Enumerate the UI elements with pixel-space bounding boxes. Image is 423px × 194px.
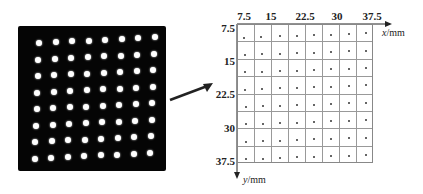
sample-point	[330, 51, 332, 53]
sample-point	[245, 141, 247, 143]
sample-point	[330, 68, 332, 70]
coordinate-grid	[237, 24, 373, 163]
sample-point	[330, 103, 332, 105]
x-axis-label: x/mm	[382, 27, 405, 38]
x-tick: 30	[332, 10, 343, 22]
sample-point	[348, 85, 350, 87]
y-tick: 7.5	[205, 22, 235, 34]
sample-point	[262, 158, 264, 160]
sample-point	[296, 52, 298, 54]
sample-point	[244, 89, 246, 91]
grid-line	[339, 25, 340, 162]
sample-point	[279, 105, 281, 107]
sample-point	[262, 123, 264, 125]
sample-point	[245, 123, 247, 125]
sample-point	[296, 139, 298, 141]
sample-point	[365, 32, 367, 34]
sample-point	[348, 68, 350, 70]
sample-point	[348, 50, 350, 52]
sample-point	[279, 122, 281, 124]
x-tick: 15	[266, 10, 277, 22]
x-tick: 37.5	[362, 10, 381, 22]
sample-point	[313, 156, 315, 158]
sample-point	[313, 34, 315, 36]
sample-point	[279, 70, 281, 72]
sample-point	[365, 67, 367, 69]
sample-point	[313, 86, 315, 88]
sample-point	[279, 53, 281, 55]
sample-point	[244, 54, 246, 56]
sample-point	[296, 70, 298, 72]
sample-point	[279, 87, 281, 89]
sample-point	[330, 86, 332, 88]
grid-line	[238, 146, 372, 147]
sample-point	[296, 156, 298, 158]
y-tick: 37.5	[205, 155, 235, 167]
sample-point	[296, 122, 298, 124]
sample-point	[261, 88, 263, 90]
sample-point	[330, 34, 332, 36]
x-tick: 7.5	[237, 10, 251, 22]
sample-point	[348, 102, 350, 104]
sample-point	[330, 155, 332, 157]
sample-point	[365, 50, 367, 52]
sample-point	[245, 158, 247, 160]
grid-line	[322, 25, 323, 162]
grid-line	[238, 111, 372, 112]
sample-point	[243, 37, 245, 39]
sample-point	[313, 138, 315, 140]
sample-point	[313, 121, 315, 123]
sample-point	[330, 138, 332, 140]
y-tick: 15	[205, 55, 235, 67]
sample-point	[279, 157, 281, 159]
sample-point	[296, 87, 298, 89]
sample-point	[365, 154, 367, 156]
sample-point	[262, 140, 264, 142]
y-tick: 22.5	[205, 88, 235, 100]
sample-point	[365, 102, 367, 104]
grid-line	[356, 25, 357, 162]
y-tick: 30	[205, 122, 235, 134]
y-axis-label: y/mm	[243, 174, 266, 185]
x-tick: 22.5	[295, 10, 314, 22]
grid-line	[238, 128, 372, 129]
sample-point	[296, 35, 298, 37]
sample-point	[262, 105, 264, 107]
sample-point	[261, 71, 263, 73]
sample-point	[279, 140, 281, 142]
sample-point	[296, 104, 298, 106]
sample-point	[313, 69, 315, 71]
sample-point	[348, 155, 350, 157]
sample-point	[330, 120, 332, 122]
sample-point	[279, 35, 281, 37]
sample-point	[365, 84, 367, 86]
sample-point	[260, 36, 262, 38]
sample-point	[365, 119, 367, 121]
sample-point	[261, 53, 263, 55]
sample-point	[348, 137, 350, 139]
sample-point	[244, 71, 246, 73]
sample-point	[245, 106, 247, 108]
grid-line	[238, 94, 372, 95]
sample-point	[348, 120, 350, 122]
sample-point	[313, 104, 315, 106]
sample-point	[365, 137, 367, 139]
sample-point	[313, 52, 315, 54]
sample-point	[348, 33, 350, 35]
